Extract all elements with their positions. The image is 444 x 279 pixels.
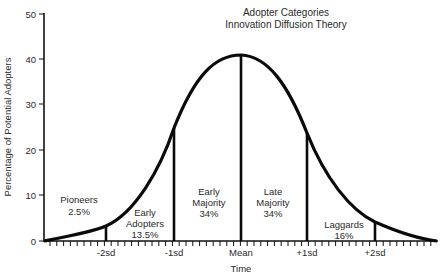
y-axis: 50 40 30 20 10 0 Percentage of Potential…: [2, 9, 44, 247]
segment-pct: 34%: [263, 208, 283, 219]
segment-pioneers: Pioneers 2.5%: [60, 194, 98, 217]
segment-pct: 13.5%: [132, 229, 159, 240]
segment-label-2: Adopters: [126, 218, 164, 229]
segment-label: Late: [264, 186, 283, 197]
segment-late-majority: Late Majority 34%: [256, 186, 290, 219]
segment-label: Early: [134, 207, 156, 218]
segment-pct: 2.5%: [68, 206, 90, 217]
segment-label: Laggards: [324, 219, 364, 230]
x-axis: -2sd -1sd Mean +1sd +2sd Time: [44, 241, 438, 274]
y-tick-30: 30: [25, 99, 36, 110]
y-tick-10: 10: [25, 190, 36, 201]
segment-pct: 16%: [334, 230, 354, 241]
y-tick-50: 50: [25, 9, 36, 20]
chart-title: Adopter Categories: [243, 7, 329, 18]
segment-early-majority: Early Majority 34%: [192, 186, 226, 219]
x-axis-label: Time: [231, 263, 252, 274]
x-tick-minus-1sd: -1sd: [165, 247, 183, 258]
segment-label: Pioneers: [60, 194, 98, 205]
x-tick-plus-2sd: +2sd: [365, 247, 386, 258]
diffusion-chart: Adopter Categories Innovation Diffusion …: [0, 0, 444, 279]
segment-early-adopters: Early Adopters 13.5%: [126, 207, 164, 240]
y-tick-0: 0: [31, 236, 36, 247]
segment-label: Early: [198, 186, 220, 197]
chart-subtitle: Innovation Diffusion Theory: [225, 19, 346, 30]
segment-label-2: Majority: [256, 197, 290, 208]
x-tick-mean: Mean: [229, 247, 253, 258]
x-tick-plus-1sd: +1sd: [297, 247, 318, 258]
y-axis-label: Percentage of Potential Adopters: [2, 57, 13, 196]
y-tick-40: 40: [25, 54, 36, 65]
x-tick-minus-2sd: -2sd: [97, 247, 115, 258]
y-tick-20: 20: [25, 145, 36, 156]
segment-pct: 34%: [199, 208, 219, 219]
segment-label-2: Majority: [192, 197, 226, 208]
segment-laggards: Laggards 16%: [324, 219, 364, 241]
